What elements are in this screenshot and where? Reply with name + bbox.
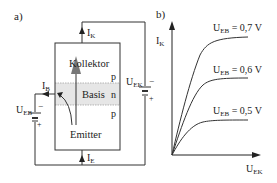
ueb-label: UEB xyxy=(16,104,33,117)
curve-label-0-7v: UEB = 0,7 V xyxy=(213,22,263,35)
doping-middle-label: n xyxy=(111,89,116,100)
uek-plus: + xyxy=(149,94,154,103)
curve-0-6v xyxy=(172,78,248,155)
doping-bottom-label: p xyxy=(111,108,116,119)
doping-top-label: p xyxy=(111,71,116,82)
transistor-figure: a) Kollektor Basis Emitter xyxy=(0,0,277,183)
ie-label: IE xyxy=(87,152,95,165)
x-axis-label: UEK xyxy=(246,163,263,176)
curve-label-0-5v: UEB = 0,5 V xyxy=(213,105,263,118)
ib-label: IB xyxy=(42,80,50,93)
ueb-plus: + xyxy=(37,120,42,129)
panel-b-label: b) xyxy=(156,8,166,21)
y-axis-arrow-icon xyxy=(169,21,175,30)
emitter-label: Emitter xyxy=(70,129,102,140)
uek-label: UEK xyxy=(126,76,143,89)
panel-a-label: a) xyxy=(14,10,23,23)
panel-b-chart: b) IK UEK UEB = 0,7 V UEB = 0,6 V UEB = … xyxy=(156,8,263,176)
ueb-minus: − xyxy=(38,101,43,111)
y-axis-label: IK xyxy=(156,35,164,48)
x-axis-arrow-icon xyxy=(252,152,261,158)
panel-a-circuit: a) Kollektor Basis Emitter xyxy=(14,10,154,165)
base-label: Basis xyxy=(82,89,105,100)
ik-arrow-icon xyxy=(79,27,85,34)
collector-label: Kollektor xyxy=(69,58,110,69)
ie-arrow-icon xyxy=(79,155,85,162)
curve-label-0-6v: UEB = 0,6 V xyxy=(213,64,263,77)
curve-0-5v xyxy=(172,120,248,155)
uek-minus: − xyxy=(149,76,154,86)
ik-label: IK xyxy=(87,27,95,40)
